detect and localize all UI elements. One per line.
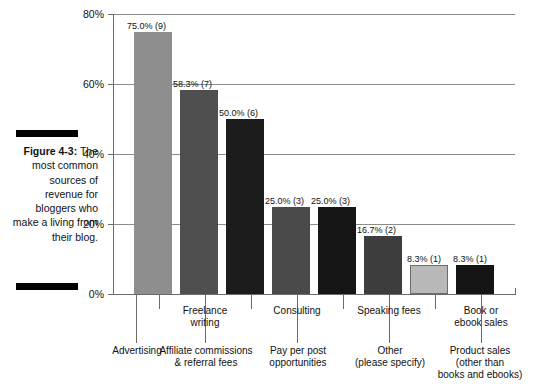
- y-tick-mark-60: [108, 84, 114, 85]
- bar-value-advertising: 75.0% (9): [127, 21, 166, 31]
- bar-value-pay-per-post: 25.0% (3): [311, 196, 350, 206]
- x-label-consulting: Consulting: [252, 305, 342, 317]
- leader-line-pay-per-post: [297, 295, 298, 343]
- x-label-pay-per-post: Pay per post opportunities: [249, 345, 347, 369]
- bar-speaking-fees[interactable]: [364, 236, 402, 294]
- bar-value-other: 8.3% (1): [407, 254, 441, 264]
- bar-value-book-ebook-sales: 8.3% (1): [453, 254, 487, 264]
- x-axis-line: [113, 294, 516, 295]
- y-tick-mark-0: [108, 294, 114, 295]
- x-label-book-ebook-sales: Book or ebook sales: [436, 305, 526, 329]
- plot-area: 75.0% (9) 58.3% (7) 50.0% (6) 25.0% (3) …: [113, 14, 515, 294]
- figure-caption-text: Figure 4-3: The most common sources of r…: [12, 144, 98, 244]
- leader-line-advertising: [136, 295, 137, 343]
- figure-caption-body: The most common sources of revenue for b…: [13, 145, 98, 243]
- bar-advertising[interactable]: [134, 32, 172, 295]
- caption-rule-bottom: [16, 283, 78, 290]
- figure-caption-block: Figure 4-3: The most common sources of r…: [16, 130, 78, 137]
- bar-value-speaking-fees: 16.7% (2): [357, 225, 396, 235]
- x-label-product-sales: Product sales (other than books and eboo…: [424, 345, 536, 381]
- y-tick-mark-80: [108, 14, 114, 15]
- bar-value-consulting: 25.0% (3): [265, 196, 304, 206]
- bar-freelance-writing[interactable]: [180, 90, 218, 294]
- figure-number-label: Figure 4-3:: [23, 145, 77, 157]
- caption-rule-top: [16, 130, 78, 137]
- bar-consulting[interactable]: [272, 207, 310, 295]
- x-axis-right-cap: [515, 288, 516, 295]
- leader-line-other: [389, 295, 390, 343]
- bar-other[interactable]: [410, 265, 448, 294]
- gridline-40: [113, 154, 515, 155]
- bar-pay-per-post[interactable]: [318, 207, 356, 295]
- gridline-80: [113, 14, 515, 15]
- x-label-freelance-writing: Freelance writing: [160, 305, 250, 329]
- y-tick-mark-40: [108, 154, 114, 155]
- gridline-20: [113, 224, 515, 225]
- bar-value-freelance-writing: 58.3% (7): [173, 79, 212, 89]
- bar-book-ebook-sales[interactable]: [456, 265, 494, 294]
- x-label-speaking-fees: Speaking fees: [344, 305, 434, 317]
- bar-value-affiliate-commissions: 50.0% (6): [219, 108, 258, 118]
- bar-affiliate-commissions[interactable]: [226, 119, 264, 294]
- y-tick-mark-20: [108, 224, 114, 225]
- y-tick-label-80: 80%: [64, 8, 104, 20]
- y-tick-label-60: 60%: [64, 78, 104, 90]
